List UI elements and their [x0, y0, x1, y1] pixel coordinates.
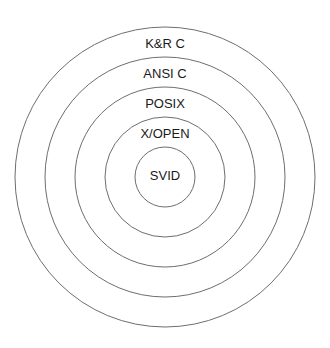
concentric-standards-diagram: K&R C ANSI C POSIX X/OPEN SVID [0, 0, 330, 348]
ring-ansi-c-label: ANSI C [143, 66, 186, 81]
ring-svid: SVID [135, 147, 195, 207]
ring-kr-c-label: K&R C [145, 36, 185, 51]
ring-svid-label: SVID [150, 168, 180, 183]
ring-posix-label: POSIX [145, 96, 185, 111]
ring-x-open-label: X/OPEN [140, 126, 189, 141]
